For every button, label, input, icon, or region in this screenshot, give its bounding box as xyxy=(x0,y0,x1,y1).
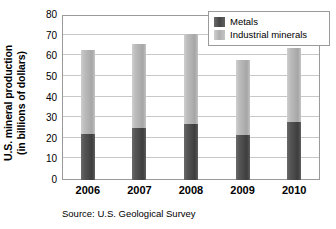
bar-segment-industrial-minerals-2007 xyxy=(132,44,146,129)
bar-group-2007 xyxy=(114,15,166,180)
bar-segment-metals-2010 xyxy=(287,122,301,180)
industrial-minerals-swatch-icon xyxy=(214,30,225,40)
bar-segment-metals-2006 xyxy=(81,134,95,180)
bar-group-2006 xyxy=(62,15,114,180)
bar-segment-metals-2007 xyxy=(132,128,146,180)
y-tick-label-30: 30 xyxy=(33,112,57,123)
y-tick-label-60: 60 xyxy=(33,50,57,61)
source-note: Source: U.S. Geological Survey xyxy=(62,208,196,219)
y-tick-label-40: 40 xyxy=(33,92,57,103)
mineral-production-chart: U.S. mineral production (in billions of … xyxy=(0,0,336,229)
y-tick-label-10: 10 xyxy=(33,153,57,164)
bar-segment-industrial-minerals-2010 xyxy=(287,48,301,122)
y-tick-label-70: 70 xyxy=(33,30,57,41)
legend: Metals Industrial minerals xyxy=(208,11,330,46)
bar-segment-industrial-minerals-2009 xyxy=(236,60,250,134)
y-tick-label-80: 80 xyxy=(33,9,57,20)
y-tick-label-20: 20 xyxy=(33,133,57,144)
bar-segment-metals-2009 xyxy=(236,135,250,180)
x-axis-tick-labels: 20062007200820092010 xyxy=(62,184,320,202)
y-tick-label-0: 0 xyxy=(33,174,57,185)
legend-item-industrial-minerals: Industrial minerals xyxy=(214,28,325,41)
x-tick-label-2007: 2007 xyxy=(114,184,166,196)
x-tick-label-2008: 2008 xyxy=(165,184,217,196)
x-tick-label-2009: 2009 xyxy=(217,184,269,196)
x-tick-label-2010: 2010 xyxy=(268,184,320,196)
legend-label-industrial-minerals: Industrial minerals xyxy=(230,29,307,40)
bar-segment-industrial-minerals-2008 xyxy=(184,34,198,125)
metals-swatch-icon xyxy=(214,17,225,27)
y-tick-label-50: 50 xyxy=(33,71,57,82)
legend-label-metals: Metals xyxy=(230,16,258,27)
x-tick-label-2006: 2006 xyxy=(62,184,114,196)
bar-segment-industrial-minerals-2006 xyxy=(81,50,95,134)
legend-item-metals: Metals xyxy=(214,15,325,28)
bar-segment-metals-2008 xyxy=(184,124,198,180)
